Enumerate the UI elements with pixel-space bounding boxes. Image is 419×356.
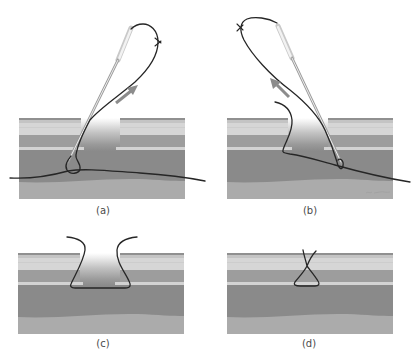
skin-layers (227, 253, 393, 334)
panel-d: (d) (227, 250, 393, 349)
stripe-nub-right (324, 147, 328, 150)
panel-label-b: (b) (303, 205, 317, 216)
stripe-nub-left (81, 147, 84, 150)
panel-b: (b) (227, 18, 410, 216)
wound-gap (80, 253, 120, 286)
tissue-layers-c (18, 253, 184, 334)
panel-label-c: (c) (96, 338, 109, 349)
panel-c: (c) (18, 237, 184, 349)
tissue-layers-a (19, 118, 185, 199)
tissue-layers-d (227, 253, 393, 334)
stripe-nub-right (115, 282, 120, 285)
stripe-nub-left (288, 147, 292, 150)
figure-canvas: (a) (b) (0, 0, 419, 356)
panel-label-d: (d) (302, 338, 316, 349)
suture-figure: (a) (b) (0, 0, 419, 356)
stripe-nub-left (80, 282, 83, 285)
panel-a: (a) (10, 24, 205, 216)
stripe-nub-right (116, 147, 120, 150)
thread-end-tick-icon (237, 24, 243, 31)
panel-label-a: (a) (96, 205, 110, 216)
